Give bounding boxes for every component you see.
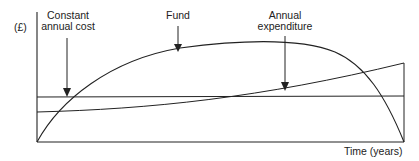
constant-cost-line (37, 96, 404, 97)
x-axis-label: Time (years) (344, 146, 403, 157)
fund-curve (37, 42, 404, 142)
constant-cost-label-line2: annual cost (40, 21, 96, 32)
constant-cost-arrow-icon (63, 88, 71, 97)
constant-cost-label: Constant annual cost (40, 10, 96, 32)
fund-label: Fund (164, 10, 192, 21)
expenditure-arrow-icon (281, 82, 289, 91)
expenditure-label: Annual expenditure (250, 10, 320, 32)
expenditure-label-line2: expenditure (250, 21, 320, 32)
y-axis-label: (£) (14, 22, 27, 33)
expenditure-line (37, 63, 404, 112)
